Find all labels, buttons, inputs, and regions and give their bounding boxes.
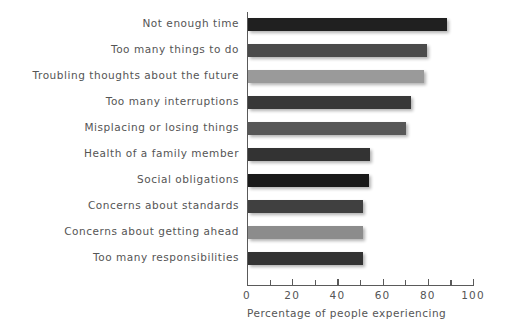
category-label: Too many responsibilities xyxy=(0,251,239,264)
bar xyxy=(248,70,424,83)
x-tick-label: 60 xyxy=(375,289,391,301)
x-tick-label: 20 xyxy=(284,289,300,301)
x-tick-major xyxy=(428,279,429,285)
x-tick-minor xyxy=(315,280,316,285)
x-tick-label: 80 xyxy=(420,289,436,301)
bar xyxy=(248,148,370,161)
category-label: Health of a family member xyxy=(0,147,239,160)
bar-chart: Not enough time Too many things to do Tr… xyxy=(0,0,514,331)
x-axis-line xyxy=(247,285,474,286)
category-axis-labels: Not enough time Too many things to do Tr… xyxy=(0,0,243,285)
x-axis: 020406080100 Percentage of people experi… xyxy=(247,285,479,331)
category-label: Troubling thoughts about the future xyxy=(0,69,239,82)
x-tick-minor xyxy=(360,280,361,285)
bar xyxy=(248,18,447,31)
x-tick-label: 100 xyxy=(461,289,485,301)
x-tick-minor xyxy=(405,280,406,285)
category-label: Concerns about standards xyxy=(0,199,239,212)
x-tick-label: 0 xyxy=(243,289,251,301)
x-tick-minor xyxy=(450,280,451,285)
x-tick-major xyxy=(292,279,293,285)
bar xyxy=(248,200,363,213)
x-tick-major xyxy=(247,279,248,285)
x-tick-label: 40 xyxy=(330,289,346,301)
category-label: Not enough time xyxy=(0,17,239,30)
x-axis-title: Percentage of people experiencing xyxy=(247,307,446,319)
category-label: Misplacing or losing things xyxy=(0,121,239,134)
category-label: Social obligations xyxy=(0,173,239,186)
bar xyxy=(248,122,406,135)
bar xyxy=(248,226,363,239)
plot-area xyxy=(247,0,479,285)
category-label: Concerns about getting ahead xyxy=(0,225,239,238)
bar xyxy=(248,96,411,109)
bar xyxy=(248,174,369,187)
category-label: Too many things to do xyxy=(0,43,239,56)
x-tick-major xyxy=(473,279,474,285)
bar xyxy=(248,44,427,57)
x-tick-major xyxy=(383,279,384,285)
x-tick-minor xyxy=(270,280,271,285)
category-label: Too many interruptions xyxy=(0,95,239,108)
bar xyxy=(248,252,363,265)
x-tick-major xyxy=(337,279,338,285)
